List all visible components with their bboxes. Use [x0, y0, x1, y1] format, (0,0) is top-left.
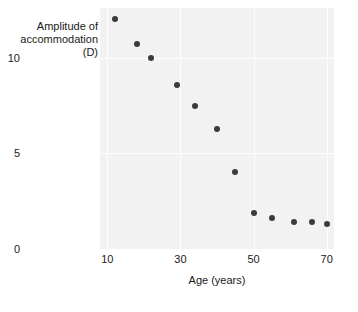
- data-point: [269, 215, 275, 221]
- data-point: [309, 219, 315, 225]
- y-axis-tick-label: 5: [0, 148, 20, 159]
- y-axis-title-line-2: accommodation: [18, 33, 98, 46]
- data-point: [291, 219, 297, 225]
- x-axis-tick-label: 10: [87, 253, 127, 265]
- gridline-horizontal: [100, 153, 334, 154]
- gridline-horizontal: [100, 58, 334, 59]
- data-point: [174, 82, 180, 88]
- gridline-vertical: [107, 8, 108, 249]
- y-axis-title-line-1: Amplitude of: [18, 20, 98, 33]
- x-axis-title: Age (years): [100, 274, 334, 286]
- x-axis-tick-label: 70: [307, 253, 347, 265]
- y-axis-title: Amplitude of accommodation (D): [18, 20, 98, 59]
- data-point: [112, 16, 118, 22]
- data-point: [232, 169, 238, 175]
- gridline-vertical: [180, 8, 181, 249]
- data-point: [324, 221, 330, 227]
- data-point: [251, 210, 257, 216]
- gridline-vertical: [327, 8, 328, 249]
- y-axis-tick-label: 0: [0, 244, 20, 255]
- data-point: [134, 41, 140, 47]
- plot-area: [100, 8, 334, 249]
- data-point: [148, 55, 154, 61]
- y-axis-tick-label: 10: [0, 53, 20, 64]
- data-point: [192, 103, 198, 109]
- x-axis-tick-label: 30: [160, 253, 200, 265]
- data-point: [214, 126, 220, 132]
- x-axis-tick-label: 50: [234, 253, 274, 265]
- chart-figure: Amplitude of accommodation (D) 0510 1030…: [0, 0, 358, 312]
- y-axis-title-line-3: (D): [18, 46, 98, 59]
